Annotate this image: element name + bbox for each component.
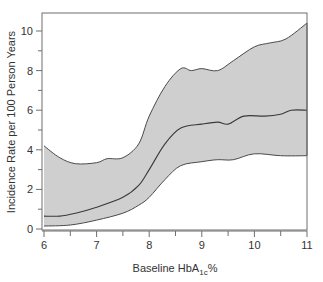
x-axis-title-subscript: 1c [199, 268, 207, 277]
x-axis: 67891011 [41, 231, 313, 251]
y-tick-label: 6 [27, 104, 33, 116]
y-tick-label: 2 [27, 183, 33, 195]
y-tick-label: 10 [21, 25, 33, 37]
x-axis-title-suffix: % [208, 262, 218, 274]
x-tick-label: 8 [146, 239, 152, 251]
x-axis-title-main: Baseline HbA [133, 262, 200, 274]
x-tick-label: 7 [94, 239, 100, 251]
y-tick-label: 4 [27, 144, 33, 156]
y-tick-label: 8 [27, 65, 33, 77]
x-axis-title: Baseline HbA1c% [133, 262, 218, 277]
x-tick-label: 10 [248, 239, 260, 251]
incidence-rate-chart: 0246810 67891011 Incidence Rate per 100 … [0, 0, 323, 282]
x-tick-label: 11 [301, 239, 312, 251]
x-tick-label: 6 [41, 239, 47, 251]
x-tick-label: 9 [199, 239, 205, 251]
y-axis-title: Incidence Rate per 100 Person Years [5, 30, 17, 213]
confidence-band-area [44, 23, 307, 226]
y-tick-label: 0 [27, 223, 33, 235]
y-axis: 0246810 [21, 25, 42, 235]
